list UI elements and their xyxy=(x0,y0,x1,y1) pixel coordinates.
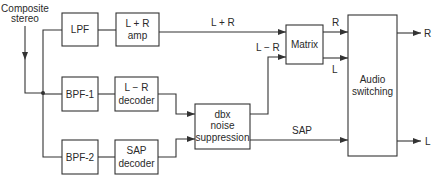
svg-text:decoder: decoder xyxy=(118,158,155,169)
svg-text:Matrix: Matrix xyxy=(291,39,318,50)
output-l-label: L xyxy=(425,136,431,147)
svg-text:switching: switching xyxy=(352,86,393,97)
lr-diff-signal-label: L − R xyxy=(256,42,280,53)
svg-text:suppression: suppression xyxy=(196,132,250,143)
lr-diff-decoder-block: L − R decoder xyxy=(115,77,158,111)
svg-text:LPF: LPF xyxy=(71,24,89,35)
svg-text:noise: noise xyxy=(211,120,235,131)
matrix-r-label: R xyxy=(332,17,339,28)
tv-stereo-sap-block-diagram: Composite stereo LPF L + R amp L + R BPF… xyxy=(0,0,441,183)
sap-signal-label: SAP xyxy=(292,125,312,136)
bpf1-block: BPF-1 xyxy=(62,77,98,111)
matrix-l-label: L xyxy=(332,64,338,75)
lr-sum-amp-block: L + R amp xyxy=(116,13,159,46)
svg-text:L − R: L − R xyxy=(125,82,149,93)
sap-decoder-block: SAP decoder xyxy=(115,140,158,174)
composite-stereo-input-label: Composite stereo xyxy=(1,3,49,24)
svg-text:L + R: L + R xyxy=(126,18,150,29)
svg-text:SAP: SAP xyxy=(126,145,146,156)
lr-diff-to-dbx-wire xyxy=(158,94,195,114)
dbx-noise-suppression-block: dbx noise suppression xyxy=(195,104,250,149)
audio-switching-block: Audio switching xyxy=(348,15,397,156)
lr-sum-signal-label: L + R xyxy=(211,17,235,28)
svg-text:stereo: stereo xyxy=(11,13,39,24)
distribution-bus xyxy=(43,30,62,157)
output-r-label: R xyxy=(424,28,431,39)
matrix-block: Matrix xyxy=(286,25,323,64)
dbx-lr-diff-to-matrix-wire xyxy=(250,57,286,114)
svg-text:amp: amp xyxy=(128,30,148,41)
svg-text:dbx: dbx xyxy=(214,109,230,120)
lpf-block: LPF xyxy=(62,13,98,46)
svg-text:BPF-2: BPF-2 xyxy=(66,152,95,163)
bpf2-block: BPF-2 xyxy=(62,140,98,174)
svg-text:BPF-1: BPF-1 xyxy=(66,89,95,100)
svg-text:decoder: decoder xyxy=(118,95,155,106)
sap-to-dbx-wire xyxy=(158,139,195,157)
svg-text:Audio: Audio xyxy=(360,74,386,85)
input-wire xyxy=(25,26,43,93)
